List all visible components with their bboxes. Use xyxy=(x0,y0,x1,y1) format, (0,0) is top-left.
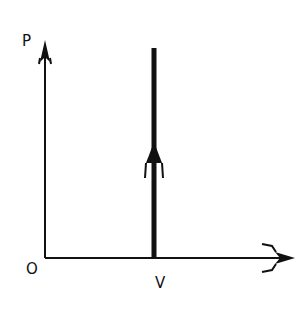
v-tick-label: V xyxy=(155,276,165,291)
origin-label: O xyxy=(26,262,38,277)
process-direction-arrow-icon xyxy=(146,142,162,163)
pv-diagram xyxy=(0,0,307,312)
p-axis-label: P xyxy=(22,34,31,49)
